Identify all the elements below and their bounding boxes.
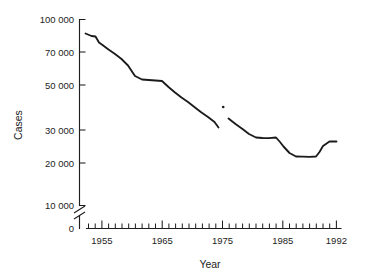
y-tick-label-0: 0 bbox=[69, 223, 74, 234]
chart-figure: 100 000 70 000 50 000 30 000 20 000 10 0… bbox=[0, 0, 366, 280]
x-minor-ticks bbox=[89, 224, 330, 229]
x-major-ticks bbox=[102, 221, 337, 229]
y-tick-label-100000: 100 000 bbox=[40, 14, 74, 25]
isolated-data-point bbox=[222, 106, 225, 109]
y-tick-label-20000: 20 000 bbox=[45, 158, 74, 169]
x-tick-label-1965: 1965 bbox=[152, 235, 173, 246]
y-tick-label-10000: 10 000 bbox=[45, 200, 74, 211]
y-tick-label-50000: 50 000 bbox=[45, 80, 74, 91]
y-tick-label-30000: 30 000 bbox=[45, 125, 74, 136]
y-axis-title: Cases bbox=[12, 110, 24, 140]
x-axis-title: Year bbox=[199, 258, 221, 270]
y-axis: 100 000 70 000 50 000 30 000 20 000 10 0… bbox=[12, 14, 86, 234]
y-tick-label-70000: 70 000 bbox=[45, 47, 74, 58]
data-series-cases bbox=[86, 34, 337, 157]
line-chart-svg: 100 000 70 000 50 000 30 000 20 000 10 0… bbox=[0, 0, 366, 280]
x-tick-label-1955: 1955 bbox=[91, 235, 112, 246]
data-line-segment-1 bbox=[86, 34, 219, 128]
x-tick-label-1992: 1992 bbox=[326, 235, 347, 246]
data-line-segment-2 bbox=[229, 119, 337, 157]
x-tick-label-1985: 1985 bbox=[272, 235, 293, 246]
x-axis: 1955 1965 1975 1985 1992 Year bbox=[87, 221, 347, 271]
x-tick-label-1975: 1975 bbox=[212, 235, 233, 246]
